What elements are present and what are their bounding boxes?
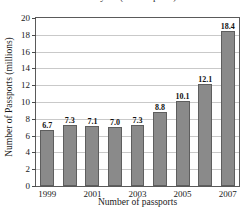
bar-value-label: 7.3 <box>132 116 142 125</box>
y-tick-label: 10 <box>21 98 30 107</box>
bar-slot: 7.0 <box>104 18 127 186</box>
bar-slot: 200510.1 <box>171 18 194 186</box>
bar[interactable]: 7.0 <box>108 127 122 186</box>
y-tick-label: 0 <box>26 182 31 191</box>
y-tick-label: 20 <box>21 14 30 23</box>
y-tick-label: 2 <box>26 165 31 174</box>
chart-title: Fiscal year (from reports) <box>0 0 250 2</box>
bar-value-label: 8.8 <box>155 103 165 112</box>
bar[interactable]: 8.8 <box>153 112 167 186</box>
y-tick-label: 16 <box>21 47 30 56</box>
bar-value-label: 6.7 <box>42 121 52 130</box>
plot-area: 02468101214161820 19996.77.320017.17.020… <box>35 17 240 187</box>
bar-slot: 20037.3 <box>126 18 149 186</box>
y-axis-title: Number of Passports (millions) <box>4 4 14 190</box>
bar[interactable]: 12.1 <box>198 84 212 186</box>
bar-value-label: 7.1 <box>87 117 97 126</box>
bar[interactable]: 10.1 <box>176 101 190 186</box>
y-tick-label: 6 <box>26 131 31 140</box>
bar-slot: 19996.7 <box>36 18 59 186</box>
bar-value-label: 18.4 <box>221 22 235 31</box>
y-tick-label: 12 <box>21 81 30 90</box>
bar-slot: 12.1 <box>194 18 217 186</box>
bar[interactable]: 7.3 <box>63 125 77 186</box>
bar-slot: 7.3 <box>59 18 82 186</box>
bar[interactable]: 7.3 <box>131 125 145 186</box>
bar-slot: 8.8 <box>149 18 172 186</box>
bar[interactable]: 18.4 <box>221 31 235 186</box>
x-axis-title: Number of passports <box>35 197 240 207</box>
bar[interactable]: 7.1 <box>85 126 99 186</box>
bar-slot: 200718.4 <box>216 18 239 186</box>
bar-slot: 20017.1 <box>81 18 104 186</box>
bars-layer: 19996.77.320017.17.020037.38.8200510.112… <box>36 18 239 186</box>
y-tick-mark <box>32 186 36 187</box>
y-tick-label: 4 <box>26 148 31 157</box>
bar-chart: Fiscal year (from reports) Number of Pas… <box>0 0 250 212</box>
bar-value-label: 7.0 <box>110 118 120 127</box>
bar-value-label: 7.3 <box>65 116 75 125</box>
y-tick-label: 8 <box>26 114 31 123</box>
y-tick-label: 14 <box>21 64 30 73</box>
bar-value-label: 10.1 <box>176 92 190 101</box>
y-tick-label: 18 <box>21 30 30 39</box>
bar-value-label: 12.1 <box>198 75 212 84</box>
bar[interactable]: 6.7 <box>40 130 54 186</box>
